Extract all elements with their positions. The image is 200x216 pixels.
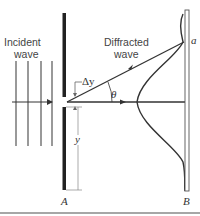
screen-label-b: B — [183, 195, 190, 207]
central-ray-arrow — [120, 100, 126, 105]
diffracted-wave-label-line1: Diffracted — [104, 36, 149, 48]
incident-wave-label-line2: wave — [13, 48, 39, 60]
incident-wave-label-line1: Incident — [4, 36, 41, 48]
barrier-label-a: A — [60, 195, 68, 207]
incident-wavefronts — [16, 61, 52, 146]
diffracted-wave-label-line2: wave — [113, 48, 139, 60]
y-dimension — [66, 107, 82, 190]
barrier-a — [63, 13, 67, 190]
diffraction-diagram: Incident wave Δy y A Diffracted wave θ — [0, 0, 200, 216]
screen-b — [185, 10, 189, 191]
y-label: y — [74, 133, 80, 145]
theta-label: θ — [111, 88, 117, 100]
delta-y-label: Δy — [82, 75, 95, 87]
point-a-label: a — [191, 34, 197, 46]
